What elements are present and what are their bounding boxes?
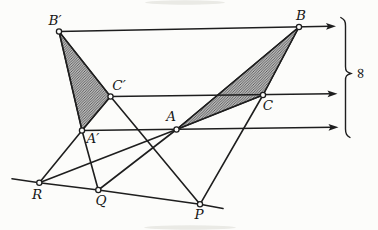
point-marker-B-prime	[56, 29, 61, 34]
point-label-R: R	[31, 186, 42, 202]
point-marker-A	[174, 127, 179, 132]
paper-background	[0, 0, 378, 230]
point-marker-A-prime	[79, 128, 84, 133]
infinity-label: ∞	[352, 67, 370, 80]
geometry-diagram: ∞B′BC′CA′ARQP	[0, 0, 378, 230]
scan-artifact-1	[144, 225, 236, 229]
point-label-C: C	[263, 97, 274, 113]
point-label-C-prime: C′	[112, 77, 125, 93]
point-marker-R	[37, 180, 42, 185]
point-label-A-prime: A′	[85, 130, 100, 146]
point-marker-B	[296, 24, 301, 29]
point-label-B-prime: B′	[48, 12, 62, 28]
scan-artifact-0	[145, 0, 225, 4]
point-label-P: P	[193, 206, 204, 222]
point-label-A: A	[164, 108, 176, 124]
figure-container: ∞B′BC′CA′ARQP	[0, 0, 378, 230]
point-label-B: B	[295, 7, 306, 23]
point-label-Q: Q	[95, 192, 106, 208]
point-marker-C-prime	[108, 94, 113, 99]
